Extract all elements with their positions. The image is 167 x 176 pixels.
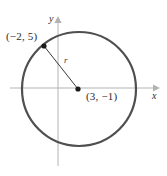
radius-segment-line: [44, 46, 78, 89]
point-on-circle-label: (−2, 5): [6, 31, 37, 42]
y-axis-arrowhead: [54, 16, 61, 23]
center-point-marker: [75, 86, 80, 91]
coordinate-plane-svg: [0, 0, 167, 176]
circle-graph-figure: (−2, 5) (3, −1) x y r: [0, 0, 167, 176]
center-point-label: (3, −1): [86, 91, 117, 102]
x-axis-label: x: [152, 91, 157, 101]
y-axis-label: y: [49, 14, 54, 24]
radius-label: r: [64, 56, 68, 65]
point-on-circle-marker: [41, 43, 46, 48]
